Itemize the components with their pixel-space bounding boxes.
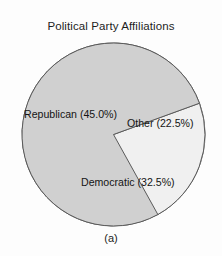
pie-chart-canvas: Republican (45.0%) Other (22.5%) Democra… [0,0,222,256]
figure-caption: (a) [0,232,222,244]
pie-slices [22,43,205,226]
pie-label-republican: Republican (45.0%) [24,108,117,120]
pie-label-democratic: Democratic (32.5%) [81,176,175,188]
pie-chart-figure: Political Party Affiliations Republican … [0,0,222,256]
pie-label-other: Other (22.5%) [127,117,194,129]
